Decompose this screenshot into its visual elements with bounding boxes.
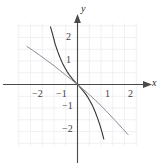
x-axis-name: x [152, 78, 156, 88]
y-tick-label-1: 1 [66, 55, 71, 65]
graph-figure: −2 −1 1 2 2 1 −1 −2 x y [0, 0, 166, 167]
plot-canvas [0, 0, 166, 167]
x-tick-label-minus-1: −1 [56, 89, 67, 99]
x-tick-label-minus-2: −2 [32, 89, 43, 99]
y-axis-arrowhead [74, 14, 81, 23]
x-tick-label-2: 2 [128, 89, 133, 99]
x-axis-arrowhead [143, 81, 152, 88]
y-tick-label-2: 2 [66, 32, 71, 42]
y-tick-label-minus-1: −1 [62, 101, 73, 111]
x-tick-label-1: 1 [105, 89, 110, 99]
y-axis-name: y [81, 4, 85, 14]
y-tick-label-minus-2: −2 [62, 124, 73, 134]
